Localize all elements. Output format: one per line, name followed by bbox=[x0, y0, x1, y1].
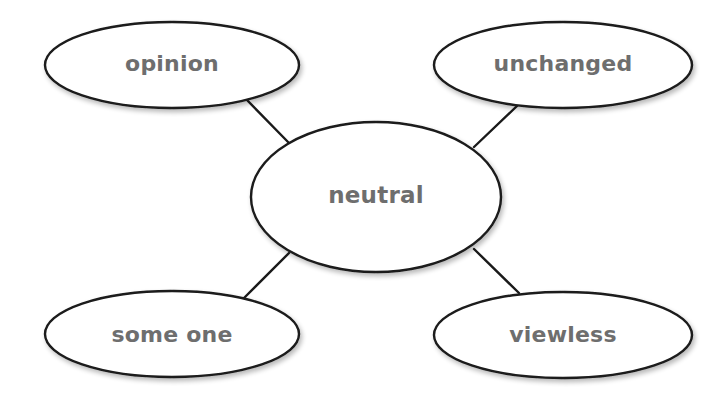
connector-opinion bbox=[246, 99, 289, 143]
node-label-neutral: neutral bbox=[328, 182, 424, 208]
node-label-some-one: some one bbox=[111, 322, 232, 347]
connector-some-one bbox=[244, 253, 289, 298]
node-label-viewless: viewless bbox=[509, 322, 616, 347]
connector-unchanged bbox=[474, 106, 517, 147]
node-label-opinion: opinion bbox=[125, 51, 219, 76]
connector-viewless bbox=[474, 249, 519, 293]
node-label-unchanged: unchanged bbox=[494, 51, 633, 76]
